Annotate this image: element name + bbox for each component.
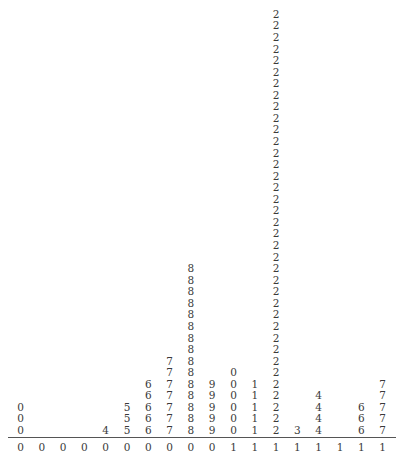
leaf-digit: 8 xyxy=(184,274,198,286)
leaf-digit: 2 xyxy=(269,181,283,193)
leaf-digit: 9 xyxy=(205,389,219,401)
leaf-digit: 8 xyxy=(184,366,198,378)
leaf-digit: 7 xyxy=(163,389,177,401)
leaf-digit: 2 xyxy=(269,8,283,20)
stem-label: 0 xyxy=(120,441,134,453)
leaf-digit: 2 xyxy=(269,308,283,320)
leaf-digit: 7 xyxy=(163,378,177,390)
leaf-digit: 2 xyxy=(269,158,283,170)
leaf-digit: 9 xyxy=(205,378,219,390)
leaf-digit: 8 xyxy=(184,412,198,424)
leaf-digit: 8 xyxy=(184,332,198,344)
leaf-digit: 2 xyxy=(269,43,283,55)
leaf-digit: 6 xyxy=(354,401,368,413)
leaf-digit: 2 xyxy=(269,262,283,274)
leaf-digit: 2 xyxy=(269,147,283,159)
leaf-digit: 5 xyxy=(120,424,134,436)
leaf-digit: 2 xyxy=(269,285,283,297)
leaf-digit: 7 xyxy=(376,424,390,436)
stem-label: 0 xyxy=(163,441,177,453)
leaf-digit: 8 xyxy=(184,378,198,390)
leaf-digit: 2 xyxy=(269,123,283,135)
leaf-digit: 8 xyxy=(184,285,198,297)
leaf-digit: 0 xyxy=(227,366,241,378)
leaf-digit: 6 xyxy=(141,412,155,424)
leaf-digit: 4 xyxy=(312,412,326,424)
leaf-digit: 9 xyxy=(205,412,219,424)
stem-label: 0 xyxy=(35,441,49,453)
leaf-digit: 2 xyxy=(269,54,283,66)
leaf-digit: 8 xyxy=(184,262,198,274)
leaf-digit: 2 xyxy=(269,251,283,263)
leaf-digit: 2 xyxy=(269,343,283,355)
leaf-digit: 1 xyxy=(248,389,262,401)
leaf-digit: 7 xyxy=(163,424,177,436)
leaf-digit: 2 xyxy=(269,66,283,78)
leaf-digit: 7 xyxy=(376,389,390,401)
leaf-digit: 1 xyxy=(248,424,262,436)
leaf-digit: 2 xyxy=(269,412,283,424)
leaf-digit: 2 xyxy=(269,274,283,286)
leaf-digit: 2 xyxy=(269,239,283,251)
leaf-digit: 3 xyxy=(290,424,304,436)
leaf-digit: 8 xyxy=(184,424,198,436)
leaf-digit: 5 xyxy=(120,401,134,413)
leaf-digit: 8 xyxy=(184,320,198,332)
stem-label: 0 xyxy=(77,441,91,453)
leaf-digit: 2 xyxy=(269,19,283,31)
leaf-digit: 7 xyxy=(376,401,390,413)
leaf-digit: 7 xyxy=(163,355,177,367)
leaf-digit: 7 xyxy=(163,366,177,378)
leaf-digit: 2 xyxy=(269,389,283,401)
leaf-digit: 0 xyxy=(14,424,28,436)
leaf-digit: 2 xyxy=(269,332,283,344)
leaf-digit: 2 xyxy=(269,77,283,89)
stem-label: 0 xyxy=(184,441,198,453)
leaf-digit: 7 xyxy=(376,412,390,424)
leaf-digit: 1 xyxy=(248,412,262,424)
leaf-digit: 6 xyxy=(141,389,155,401)
leaf-digit: 6 xyxy=(141,378,155,390)
leaf-digit: 8 xyxy=(184,401,198,413)
leaf-digit: 2 xyxy=(269,366,283,378)
leaf-digit: 1 xyxy=(248,378,262,390)
stem-label: 0 xyxy=(56,441,70,453)
leaf-digit: 0 xyxy=(227,401,241,413)
stem-label: 0 xyxy=(141,441,155,453)
stem-label: 1 xyxy=(227,441,241,453)
leaf-digit: 2 xyxy=(269,193,283,205)
stem-label: 1 xyxy=(333,441,347,453)
leaf-digit: 1 xyxy=(248,401,262,413)
leaf-digit: 8 xyxy=(184,343,198,355)
leaf-digit: 2 xyxy=(269,401,283,413)
leaf-digit: 0 xyxy=(227,389,241,401)
leaf-digit: 0 xyxy=(14,401,28,413)
stem-label: 1 xyxy=(248,441,262,453)
leaf-digit: 7 xyxy=(163,412,177,424)
leaf-digit: 4 xyxy=(312,389,326,401)
leaf-digit: 8 xyxy=(184,308,198,320)
leaf-digit: 2 xyxy=(269,424,283,436)
stem-label: 1 xyxy=(376,441,390,453)
leaf-digit: 2 xyxy=(269,170,283,182)
leaf-digit: 8 xyxy=(184,297,198,309)
leaf-digit: 2 xyxy=(269,297,283,309)
leaf-digit: 2 xyxy=(269,355,283,367)
leaf-digit: 4 xyxy=(312,424,326,436)
baseline-rule xyxy=(8,437,396,438)
leaf-digit: 9 xyxy=(205,401,219,413)
leaf-digit: 2 xyxy=(269,216,283,228)
stem-label: 0 xyxy=(99,441,113,453)
leaf-digit: 7 xyxy=(376,378,390,390)
stem-leaf-plot: 0000000040555066666077777770888888888888… xyxy=(0,0,402,460)
leaf-digit: 0 xyxy=(14,412,28,424)
leaf-digit: 2 xyxy=(269,204,283,216)
stem-label: 1 xyxy=(312,441,326,453)
leaf-digit: 2 xyxy=(269,227,283,239)
leaf-digit: 2 xyxy=(269,378,283,390)
leaf-digit: 6 xyxy=(354,412,368,424)
leaf-digit: 5 xyxy=(120,412,134,424)
leaf-digit: 2 xyxy=(269,100,283,112)
leaf-digit: 0 xyxy=(227,412,241,424)
stem-label: 1 xyxy=(269,441,283,453)
